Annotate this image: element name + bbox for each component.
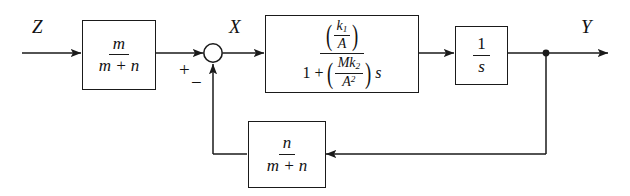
input-gain-numerator: m	[109, 35, 129, 55]
integrator-denominator: s	[474, 56, 489, 76]
signal-label-y: Y	[581, 17, 592, 36]
fraction-input-gain: m m + n	[95, 35, 144, 76]
input-gain-denominator: m + n	[95, 55, 144, 75]
output-tap-dot	[543, 50, 550, 57]
right-paren-numerator: )	[352, 23, 358, 47]
plant-den-s: s	[373, 64, 381, 81]
fraction-integrator: 1 s	[473, 35, 490, 76]
right-paren-denominator: )	[365, 61, 371, 85]
plant-den-A2: A2	[339, 74, 358, 90]
plant-numerator-fraction: k1 A	[334, 19, 351, 52]
feedback-gain-numerator: n	[279, 134, 296, 154]
feedback-gain-denominator: m + n	[263, 155, 312, 175]
signal-label-x: X	[229, 17, 241, 36]
block-input-gain: m m + n	[82, 20, 156, 90]
block-integrator: 1 s	[455, 26, 508, 85]
sum-plus-sign: +	[179, 60, 190, 79]
fraction-plant: ( k1 A ) 1 + ( Mk2 A2 ) s	[299, 19, 386, 90]
block-diagram-figure: Z X Y + − m m + n ( k1 A ) 1 + (	[0, 0, 630, 196]
plant-numerator: ( k1 A )	[320, 19, 365, 54]
summing-junction-circle	[204, 44, 222, 62]
plant-den-lead: 1 +	[303, 64, 325, 81]
sum-minus-sign: −	[191, 73, 202, 92]
plant-num-k1: k1	[334, 19, 351, 37]
integrator-numerator: 1	[473, 35, 490, 55]
plant-denominator-fraction: Mk2 A2	[335, 56, 364, 89]
plant-den-Mk2: Mk2	[335, 56, 364, 74]
block-plant: ( k1 A ) 1 + ( Mk2 A2 ) s	[265, 15, 419, 93]
fraction-feedback-gain: n m + n	[263, 134, 312, 175]
signal-label-z: Z	[32, 17, 43, 36]
left-paren-numerator: (	[325, 23, 331, 47]
block-feedback-gain: n m + n	[248, 121, 326, 188]
plant-num-A: A	[335, 36, 350, 52]
plant-denominator: 1 + ( Mk2 A2 ) s	[299, 54, 386, 89]
left-paren-denominator: (	[327, 61, 333, 85]
